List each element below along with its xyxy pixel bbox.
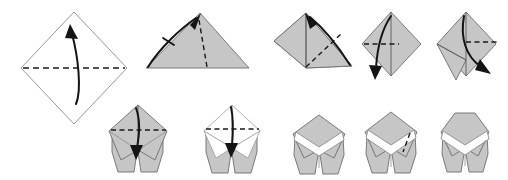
step-1-square-diamond-with-horizontal-valley-fold [21,12,127,124]
step-2-folded-triangle-with-diagonal-fold [146,13,249,68]
step-6-two-legged-form-with-horizontal-fold [109,105,167,172]
step-4-arrow-head [369,65,382,80]
step-7-white-top-with-horizontal-fold [204,105,260,173]
step-4-upright-diamond-with-horizontal-fold [362,12,421,80]
step-9-chevron-notch-form-with-side-crease [365,112,417,173]
step-5-diamond-with-leg-and-right-fold [437,12,497,80]
step-3-partially-opened-with-diagonal-fold [274,13,352,68]
step-5-paper-body [437,12,496,76]
origami-diagram [0,0,508,180]
diagram-canvas [0,0,508,180]
step-10-completed-form [441,113,489,172]
step-8-chevron-notch-form [293,115,345,174]
